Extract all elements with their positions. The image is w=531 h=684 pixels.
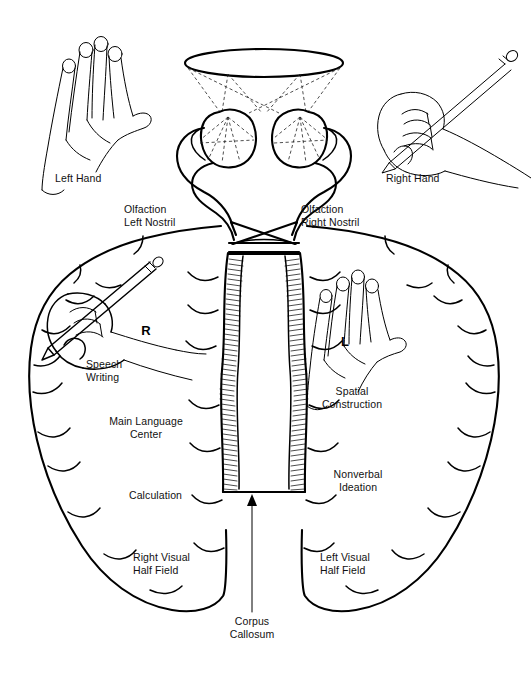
hand-left-outer [42,37,151,195]
optic-chiasm [229,222,299,252]
label-main-language-center: Main Language Center [109,415,183,441]
label-corpus-callosum: Corpus Callosum [230,615,275,641]
diagram-canvas [0,0,531,684]
corpus-callosum-pointer-arrow [247,494,257,612]
hand-right-outer-with-pencil [378,48,531,188]
visual-field-ellipse [185,49,343,77]
split-brain-diagram: Left Hand Right Hand Olfaction Left Nost… [0,0,531,684]
label-nonverbal-ideation: Nonverbal Ideation [334,468,383,494]
label-left-visual-half-field: Left Visual Half Field [320,551,370,577]
label-hemisphere-left: L [341,334,349,349]
hand-right-inner-with-pencil [42,255,206,380]
right-eye [272,110,328,168]
label-right-visual-half-field: Right Visual Half Field [133,551,190,577]
label-speech-writing: Speech Writing [86,358,122,384]
label-spatial-construction: Spatial Construction [322,385,382,411]
label-olfaction-right-nostril: Olfaction Right Nostril [301,203,359,229]
corpus-callosum-band [220,253,308,492]
label-calculation: Calculation [129,489,182,502]
label-right-hand: Right Hand [386,172,440,185]
crossed-sight-lines [188,68,340,113]
label-left-hand: Left Hand [55,172,101,185]
label-olfaction-left-nostril: Olfaction Left Nostril [124,203,175,229]
label-hemisphere-right: R [141,323,150,338]
left-eye [200,110,256,168]
